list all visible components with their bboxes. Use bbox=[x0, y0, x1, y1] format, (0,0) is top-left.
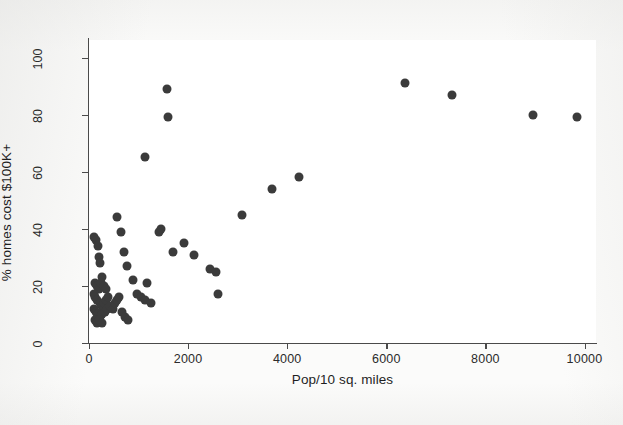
y-axis-title-text: % homes cost $100K+ bbox=[0, 144, 15, 281]
x-tick-label-10000: 10000 bbox=[567, 352, 603, 366]
y-tick-label-text: 80 bbox=[31, 109, 45, 123]
y-tick-label-text: 60 bbox=[31, 166, 45, 180]
x-tick-label-8000: 8000 bbox=[471, 352, 500, 366]
y-tick-label-text: 100 bbox=[31, 48, 45, 69]
y-axis-line bbox=[88, 38, 89, 344]
plot-area bbox=[89, 40, 596, 343]
x-tick-0 bbox=[89, 343, 90, 349]
y-tick-0 bbox=[82, 343, 88, 344]
x-tick-2000 bbox=[188, 343, 189, 349]
y-tick-label-text: 40 bbox=[31, 223, 45, 237]
x-tick-label-2000: 2000 bbox=[174, 352, 203, 366]
y-tick-60 bbox=[82, 172, 88, 173]
y-axis-title: % homes cost $100K+ bbox=[0, 0, 20, 425]
y-tick-label-text: 0 bbox=[31, 341, 45, 348]
x-axis-line bbox=[88, 343, 597, 344]
y-tick-80 bbox=[82, 115, 88, 116]
y-tick-20 bbox=[82, 286, 88, 287]
x-tick-label-0: 0 bbox=[85, 352, 92, 366]
x-tick-label-4000: 4000 bbox=[273, 352, 302, 366]
x-tick-4000 bbox=[287, 343, 288, 349]
y-tick-100 bbox=[82, 58, 88, 59]
x-tick-6000 bbox=[386, 343, 387, 349]
scatter-plot-figure: 020406080100 0200040006000800010000 % ho… bbox=[0, 0, 623, 425]
x-tick-8000 bbox=[485, 343, 486, 349]
y-tick-label-text: 20 bbox=[31, 280, 45, 294]
x-tick-10000 bbox=[585, 343, 586, 349]
x-axis-title: Pop/10 sq. miles bbox=[89, 372, 596, 387]
y-tick-40 bbox=[82, 229, 88, 230]
x-tick-label-6000: 6000 bbox=[372, 352, 401, 366]
